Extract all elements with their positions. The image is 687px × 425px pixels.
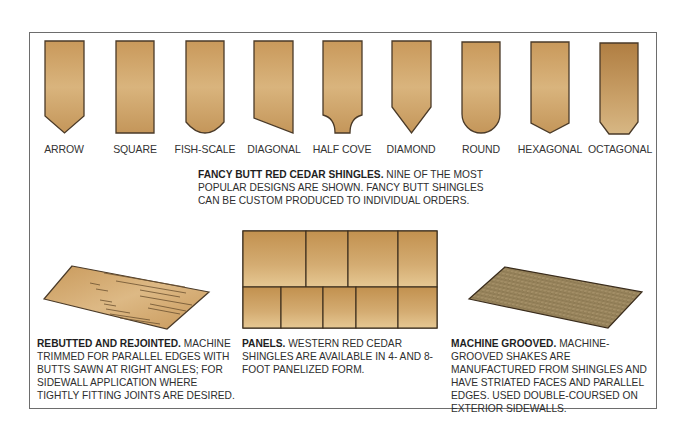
label-round: ROUND (441, 143, 521, 155)
machine-grooved-caption: MACHINE GROOVED. MACHINE-GROOVED SHAKES … (451, 337, 653, 415)
round-shingle-icon (462, 42, 500, 133)
rebutted-shingle-icon (44, 266, 209, 329)
rebutted-caption: REBUTTED AND REJOINTED. MACHINE TRIMMED … (37, 337, 242, 402)
octagonal-shingle-icon (600, 43, 638, 134)
diamond-shingle-icon (392, 41, 431, 133)
arrow-shingle-icon (45, 41, 84, 133)
machine-grooved-title: MACHINE GROOVED. (451, 338, 556, 349)
panels-caption: PANELS. WESTERN RED CEDAR SHINGLES ARE A… (242, 337, 442, 376)
machine-grooved-shake-icon (469, 267, 642, 328)
fancy-butt-title: FANCY BUTT RED CEDAR SHINGLES. (198, 169, 383, 180)
hexagonal-shingle-icon (531, 42, 569, 133)
rebutted-title: REBUTTED AND REJOINTED. (37, 338, 181, 349)
fish-scale-shingle-icon (186, 41, 224, 133)
diagonal-shingle-icon (254, 41, 293, 133)
panels-title: PANELS. (242, 338, 285, 349)
panelized-shingles-icon (243, 231, 437, 328)
label-half-cove: HALF COVE (302, 143, 382, 155)
fancy-butt-caption: FANCY BUTT RED CEDAR SHINGLES. NINE OF T… (198, 168, 498, 207)
square-shingle-icon (116, 41, 154, 133)
label-diamond: DIAMOND (371, 143, 451, 155)
label-square: SQUARE (95, 143, 175, 155)
label-fish-scale: FISH-SCALE (165, 143, 245, 155)
label-hexagonal: HEXAGONAL (510, 143, 590, 155)
half-cove-shingle-icon (323, 41, 362, 133)
label-octagonal: OCTAGONAL (580, 143, 660, 155)
machine-grooved-body: MACHINE-GROOVED SHAKES ARE MANUFACTURED … (451, 338, 647, 414)
label-arrow: ARROW (24, 143, 104, 155)
